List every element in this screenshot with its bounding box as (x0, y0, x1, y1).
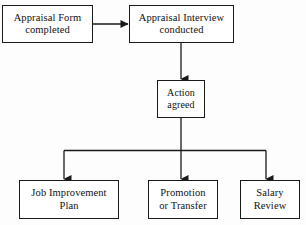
flowchart-diagram: Appraisal Form completed Appraisal Inter… (0, 0, 306, 225)
node-job-improvement-plan-label: Job Improvement Plan (29, 187, 108, 212)
node-appraisal-form-label: Appraisal Form completed (12, 12, 84, 37)
node-promotion-or-transfer-label: Promotion or Transfer (157, 187, 208, 212)
node-appraisal-interview-label: Appraisal Interview conducted (137, 12, 227, 37)
node-job-improvement-plan: Job Improvement Plan (19, 180, 119, 219)
node-appraisal-form: Appraisal Form completed (2, 5, 93, 43)
node-appraisal-interview: Appraisal Interview conducted (129, 5, 234, 43)
node-promotion-or-transfer: Promotion or Transfer (148, 180, 218, 219)
node-action-agreed-label: Action agreed (165, 87, 197, 111)
node-action-agreed: Action agreed (157, 80, 205, 118)
node-salary-review-label: Salary Review (252, 187, 289, 212)
node-salary-review: Salary Review (240, 180, 300, 219)
